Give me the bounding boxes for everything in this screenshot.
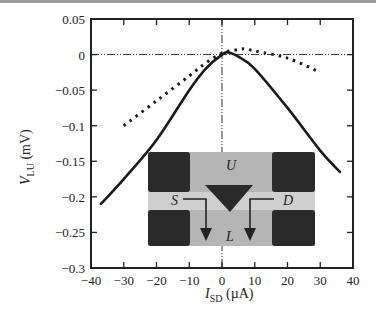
inset-label-s: S [171, 193, 178, 208]
x-tick-label: −30 [114, 273, 134, 288]
y-tick-label: −0.3 [61, 261, 85, 276]
y-tick-label: −0.2 [61, 190, 85, 205]
x-tick-label: −10 [179, 273, 199, 288]
x-tick-label: −20 [146, 273, 166, 288]
y-tick-label: −0.05 [55, 83, 85, 98]
x-axis-label: ISD (µA) [204, 286, 254, 304]
inset-label-u: U [226, 158, 237, 173]
y-axis-label: VLU (mV) [18, 129, 36, 185]
inset-label-l: L [225, 229, 234, 244]
y-tick-label: 0.05 [62, 12, 85, 27]
inset-label-d: D [282, 193, 293, 208]
y-tick-label: −0.1 [61, 119, 85, 134]
y-tick-label: −0.25 [55, 225, 85, 240]
chart: U L S D −40−30−20−10010203040 0.050−0.05… [0, 0, 376, 314]
y-tick-label: −0.15 [55, 154, 85, 169]
inset-image: U L S D [148, 152, 315, 246]
x-tick-label: 20 [281, 273, 294, 288]
x-tick-label: 30 [314, 273, 327, 288]
y-tick-label: 0 [79, 48, 86, 63]
x-tick-label: 40 [347, 273, 360, 288]
